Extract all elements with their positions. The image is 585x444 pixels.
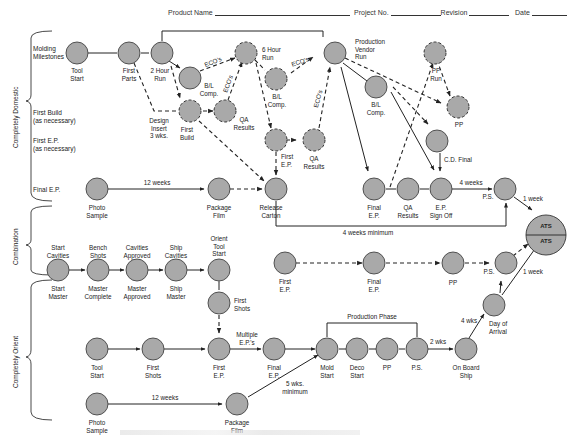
label-ats-bottom: ATS bbox=[540, 238, 552, 246]
node-dom-first-parts bbox=[118, 42, 140, 64]
node-ori-tool-start bbox=[86, 338, 108, 360]
label-ori-first-shots: FirstShots bbox=[145, 364, 161, 379]
node-dom-2hr-run bbox=[151, 42, 173, 64]
edge-label-dom-4-weeks-min: 4 weeks minimum bbox=[343, 229, 393, 237]
label-ori-pp: PP bbox=[383, 364, 391, 372]
label-comb-orient-tool-start: OrientToolStart bbox=[210, 235, 227, 258]
node-dom-tool-start bbox=[66, 42, 88, 64]
node-ori-ps bbox=[406, 338, 428, 360]
edge-label-multiple-eps: MultipleE.P.'s bbox=[236, 331, 258, 346]
node-ori-package-film bbox=[226, 393, 248, 415]
label-dom-pp-run: PPRun bbox=[430, 67, 442, 82]
label-ori-day-of-arrival: Day ofArrival bbox=[489, 320, 507, 335]
node-dom-first-ep bbox=[265, 129, 287, 151]
row-label-first-ep: First E.P. (as necessary) bbox=[33, 137, 76, 153]
label-dom-2hr-run: 2 HourRun bbox=[151, 67, 170, 82]
label-ori-on-board-ship: On BoardShip bbox=[453, 364, 480, 379]
label-comb-cavities-approved: CavitiesApproved bbox=[124, 244, 151, 259]
label-dom-qa-results3: QAResults bbox=[398, 204, 419, 219]
edge-label-ori-2-wks: 2 wks bbox=[430, 338, 446, 346]
node-comb-bench-shots bbox=[87, 259, 109, 281]
node-comb-start-cavities bbox=[47, 259, 69, 281]
label-dom-tool-start: ToolStart bbox=[70, 67, 83, 82]
node-dom-qa-results2 bbox=[303, 129, 325, 151]
node-ori-final-ep bbox=[263, 338, 285, 360]
label-ori-mold-start: MoldStart bbox=[320, 364, 334, 379]
node-comb-ps bbox=[495, 252, 517, 274]
node-dom-qa-results3 bbox=[397, 178, 419, 200]
node-ori-on-board-ship bbox=[455, 338, 477, 360]
row-label-line: First E.P. bbox=[33, 137, 76, 145]
row-label-line: Milestones bbox=[33, 53, 64, 61]
node-comb-orient-tool-start bbox=[208, 259, 230, 281]
label-comb-ship-cavities: ShipCavities bbox=[165, 244, 187, 259]
label-dom-package-film: PackageFilm bbox=[207, 204, 232, 219]
edge-label-ori-5-wks-min: 5 wks.minimum bbox=[282, 380, 308, 395]
node-dom-cd-final bbox=[426, 130, 448, 152]
label-comb-master-approved: MasterApproved bbox=[124, 285, 151, 300]
node-dom-bl-comp1 bbox=[179, 67, 201, 89]
label-dom-bl-comp1: B/LComp. bbox=[200, 82, 219, 97]
label-dom-photo-sample: PhotoSample bbox=[86, 204, 107, 219]
node-dom-6hr-run bbox=[235, 42, 257, 64]
node-ori-pp bbox=[376, 338, 398, 360]
node-ats bbox=[526, 215, 566, 255]
row-label-line: Molding bbox=[33, 45, 64, 53]
label-comb-start-cavities: StartCavities bbox=[47, 244, 69, 259]
edge-label-production-phase: Production Phase bbox=[347, 313, 397, 321]
label-comb-ps: P.S. bbox=[483, 268, 494, 276]
figure-caption-faded bbox=[120, 430, 360, 435]
node-dom-final-ep bbox=[363, 178, 385, 200]
node-ori-mold-start bbox=[316, 338, 338, 360]
node-dom-bl-comp2 bbox=[265, 68, 287, 90]
label-comb-final-ep: FinalE.P. bbox=[367, 278, 381, 293]
label-dom-6hr-run: 6 HourRun bbox=[262, 46, 281, 61]
node-comb-pp bbox=[442, 252, 464, 274]
node-ori-first-shots bbox=[142, 338, 164, 360]
label-ats-top: ATS bbox=[540, 223, 552, 231]
section-label-completely-orient: Completely Orient bbox=[12, 336, 19, 388]
node-comb-first-shots bbox=[208, 292, 230, 314]
label-dom-ps: P.S. bbox=[482, 193, 493, 201]
node-dom-package-film bbox=[208, 178, 230, 200]
row-label-line: (as necessary) bbox=[33, 145, 76, 153]
label-comb-pp: PP bbox=[449, 279, 457, 287]
label-ori-ps: P.S. bbox=[411, 364, 422, 372]
label-ori-tool-start: ToolStart bbox=[90, 364, 103, 379]
node-comb-first-ep bbox=[274, 252, 296, 274]
label-dom-ep-signoff: E.P.Sign Off bbox=[430, 204, 453, 219]
node-dom-ps bbox=[494, 178, 516, 200]
label-dom-design-insert: DesignInsert3 wks. bbox=[149, 117, 169, 140]
node-comb-ship-cavities bbox=[165, 259, 187, 281]
brace-completely-orient bbox=[26, 280, 52, 420]
section-braces bbox=[26, 31, 52, 420]
label-dom-bl-comp3: B/LComp. bbox=[367, 101, 386, 116]
dashed-edges bbox=[134, 57, 528, 333]
label-comb-first-shots: FirstShots bbox=[234, 297, 250, 312]
label-comb-start-master: StartMaster bbox=[48, 285, 67, 300]
node-dom-first-build bbox=[179, 100, 201, 122]
row-label-molding-milestones: Molding Milestones bbox=[33, 45, 64, 61]
node-dom-ep-signoff bbox=[430, 178, 452, 200]
label-dom-release-carton: ReleaseCarton bbox=[259, 204, 282, 219]
edge-label-dom-4-weeks: 4 weeks bbox=[459, 179, 482, 187]
label-ori-final-ep: FinalE.P. bbox=[267, 364, 281, 379]
node-dom-pp-run bbox=[424, 42, 446, 64]
label-dom-first-parts: FirstParts bbox=[122, 67, 137, 82]
label-dom-final-ep: FinalE.P. bbox=[367, 204, 381, 219]
node-dom-photo-sample bbox=[86, 178, 108, 200]
label-dom-qa-results1: QAResults bbox=[234, 116, 255, 131]
edge-label-dom-12-weeks: 12 weeks bbox=[144, 179, 171, 187]
milestone-network-diagram: Product Name Project No. Revision Date bbox=[0, 0, 585, 444]
row-label-line: (as necessary) bbox=[33, 117, 76, 125]
node-comb-final-ep bbox=[363, 252, 385, 274]
node-dom-prod-vendor-run bbox=[324, 42, 346, 64]
label-comb-master-complete: MasterComplete bbox=[85, 285, 112, 300]
edge-label-ori-12-weeks: 12 weeks bbox=[152, 394, 179, 402]
row-label-first-build: First Build (as necessary) bbox=[33, 109, 76, 125]
label-comb-first-ep: FirstE.P. bbox=[279, 278, 291, 293]
label-dom-bl-comp2: B/LComp. bbox=[268, 93, 287, 108]
label-dom-first-ep: FirstE.P. bbox=[281, 153, 293, 168]
node-dom-release-carton bbox=[265, 178, 287, 200]
edge-label-dom-1-week: 1 week bbox=[523, 195, 543, 203]
